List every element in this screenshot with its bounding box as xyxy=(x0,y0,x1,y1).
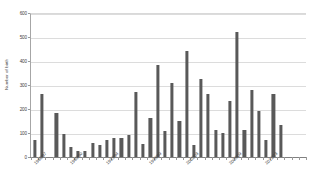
x-tick-mark xyxy=(45,157,46,160)
bar-slot xyxy=(96,13,103,157)
bar xyxy=(134,92,137,157)
y-tick-label: 0 xyxy=(25,155,27,160)
bar xyxy=(185,51,188,157)
x-tick-mark xyxy=(205,157,206,160)
y-tick-label: 200 xyxy=(20,107,27,112)
x-tick-mark xyxy=(248,157,249,160)
y-tick-label: 100 xyxy=(20,131,27,136)
x-tick-mark xyxy=(176,157,177,160)
bar xyxy=(192,145,195,157)
bar-slot xyxy=(219,13,226,157)
bar-slot xyxy=(82,13,89,157)
x-tick-mark xyxy=(161,157,162,160)
bar xyxy=(98,145,101,157)
y-axis-title: Number of birth xyxy=(4,45,9,105)
bar-slot xyxy=(38,13,45,157)
x-tick-mark xyxy=(103,157,104,160)
bar-slot xyxy=(154,13,161,157)
bar-slot xyxy=(255,13,262,157)
bar-slot xyxy=(74,13,81,157)
bars-layer xyxy=(31,13,306,157)
bar-slot xyxy=(89,13,96,157)
bar xyxy=(156,65,159,157)
bar xyxy=(199,79,202,157)
x-tick-mark xyxy=(125,157,126,160)
bar xyxy=(69,147,72,157)
bar-slot xyxy=(197,13,204,157)
bar xyxy=(113,138,116,157)
x-tick-mark xyxy=(96,157,97,160)
x-tick-mark xyxy=(82,157,83,160)
x-tick-mark xyxy=(147,157,148,160)
x-tick-mark xyxy=(169,157,170,160)
bar xyxy=(257,111,260,157)
bar xyxy=(228,101,231,157)
bar xyxy=(149,118,152,157)
bar-slot xyxy=(45,13,52,157)
x-tick-mark xyxy=(132,157,133,160)
x-tick-mark xyxy=(226,157,227,160)
bar-slot xyxy=(140,13,147,157)
bar xyxy=(171,83,174,157)
x-tick-mark xyxy=(255,157,256,160)
bar-slot xyxy=(263,13,270,157)
bar-slot xyxy=(111,13,118,157)
x-tick-mark xyxy=(234,157,235,160)
y-tick-label: 600 xyxy=(20,11,27,16)
bar-slot xyxy=(169,13,176,157)
bar-slot xyxy=(125,13,132,157)
x-tick-mark xyxy=(263,157,264,160)
bar xyxy=(214,130,217,157)
x-tick-mark xyxy=(140,157,141,160)
x-tick-mark xyxy=(183,157,184,160)
x-tick-mark xyxy=(219,157,220,160)
x-axis-ticks xyxy=(31,157,306,161)
bar xyxy=(207,94,210,157)
x-tick-mark xyxy=(270,157,271,160)
x-tick-mark xyxy=(31,157,32,160)
y-tick-label: 400 xyxy=(20,59,27,64)
x-tick-mark xyxy=(306,157,307,160)
x-tick-mark xyxy=(60,157,61,160)
bar-slot xyxy=(299,13,306,157)
bar xyxy=(105,140,108,157)
bar xyxy=(272,94,275,157)
x-tick-mark xyxy=(89,157,90,160)
bar xyxy=(120,138,123,157)
bar xyxy=(265,140,268,157)
bar-slot xyxy=(132,13,139,157)
bar xyxy=(236,32,239,157)
bar-slot xyxy=(226,13,233,157)
bar xyxy=(250,90,253,157)
bar xyxy=(91,143,94,157)
x-tick-mark xyxy=(111,157,112,160)
bar-slot xyxy=(161,13,168,157)
bar-slot xyxy=(284,13,291,157)
bar-slot xyxy=(292,13,299,157)
bar xyxy=(178,121,181,157)
bar-slot xyxy=(205,13,212,157)
bar-slot xyxy=(176,13,183,157)
bar-slot xyxy=(118,13,125,157)
bar-slot xyxy=(67,13,74,157)
bar xyxy=(55,113,58,157)
bar xyxy=(163,131,166,157)
x-tick-mark xyxy=(67,157,68,160)
x-tick-mark xyxy=(118,157,119,160)
x-tick-mark xyxy=(38,157,39,160)
bar-slot xyxy=(241,13,248,157)
y-tick-label: 500 xyxy=(20,35,27,40)
bar-slot xyxy=(60,13,67,157)
bar-slot xyxy=(103,13,110,157)
bar-chart: 0100200300400500600 Number of birth 1986… xyxy=(0,0,311,185)
bar xyxy=(279,125,282,157)
x-tick-mark xyxy=(190,157,191,160)
x-tick-mark xyxy=(284,157,285,160)
bar-slot xyxy=(183,13,190,157)
x-tick-mark xyxy=(241,157,242,160)
x-tick-mark xyxy=(292,157,293,160)
bar-slot xyxy=(53,13,60,157)
bar-slot xyxy=(234,13,241,157)
bar-slot xyxy=(277,13,284,157)
bar xyxy=(243,130,246,157)
